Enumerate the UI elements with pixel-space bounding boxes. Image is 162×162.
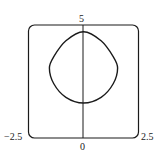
x-origin-label: 0 — [80, 142, 85, 152]
x-max-label: 2.5 — [141, 132, 154, 142]
x-min-label: −2.5 — [4, 132, 22, 142]
y-max-label: 5 — [79, 14, 84, 24]
plot-area — [0, 0, 162, 162]
